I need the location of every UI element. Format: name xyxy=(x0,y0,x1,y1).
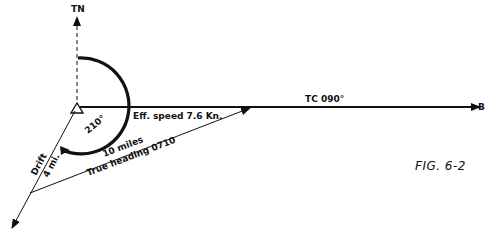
true-course-label: TC 090° xyxy=(305,94,344,104)
figure-caption: FIG. 6-2 xyxy=(415,159,466,173)
north-arrow-icon xyxy=(73,16,81,26)
effective-speed-label: Eff. speed 7.6 Kn. xyxy=(133,111,222,121)
station-triangle-icon xyxy=(71,103,83,113)
heading-arc xyxy=(62,58,129,154)
angle-label: 210° xyxy=(83,113,107,136)
true-north-label: TN xyxy=(71,4,85,14)
destination-label: B xyxy=(478,102,485,112)
vector-diagram: TN 210° B TC 090° Eff. speed 7.6 Kn. Dri… xyxy=(0,0,486,237)
